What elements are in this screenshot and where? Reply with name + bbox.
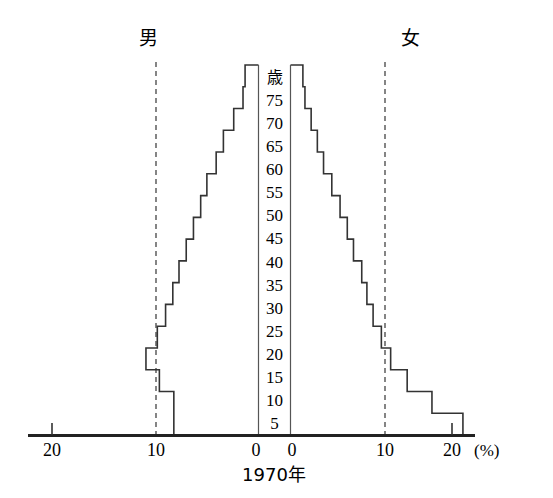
series-path-male: [146, 65, 259, 435]
x-tick-label-left-0: 0: [252, 440, 261, 460]
age-axis-tick-label: 60: [266, 160, 283, 179]
age-axis-tick-label: 75: [266, 91, 283, 110]
age-axis-tick-label: 15: [266, 368, 283, 387]
age-axis-tick-label: 35: [266, 276, 283, 295]
age-axis-tick-label: 40: [266, 253, 283, 272]
x-tick-label-left-10: 10: [147, 440, 165, 460]
age-axis-tick-label: 歳: [267, 68, 283, 87]
x-axis-year-label: 1970年: [242, 464, 306, 485]
x-tick-label-right-0: 0: [288, 440, 297, 460]
x-tick-label-left-20: 20: [43, 440, 61, 460]
series-path-female: [291, 65, 463, 435]
age-axis-tick-label: 50: [266, 206, 283, 225]
age-axis-tick-label: 5: [270, 414, 279, 433]
age-axis-tick-label: 25: [266, 322, 283, 341]
age-axis-tick-label: 55: [266, 183, 283, 202]
x-axis-unit-label: (%): [474, 441, 499, 460]
x-tick-label-right-20: 20: [443, 440, 461, 460]
age-axis-tick-label: 10: [266, 391, 283, 410]
age-axis-tick-label: 30: [266, 299, 283, 318]
population-pyramid-chart: 男 女 歳75706560555045403530252015105 20 10…: [0, 0, 553, 498]
age-axis-tick-label: 70: [266, 114, 283, 133]
legend-label-female: 女: [401, 27, 420, 49]
age-axis-tick-label: 20: [266, 345, 283, 364]
age-axis-labels: 歳75706560555045403530252015105: [266, 68, 283, 434]
x-tick-label-right-10: 10: [376, 440, 394, 460]
pyramid-svg-canvas: 男 女 歳75706560555045403530252015105 20 10…: [0, 0, 553, 498]
legend-label-male: 男: [139, 27, 158, 49]
age-axis-tick-label: 65: [266, 137, 283, 156]
age-axis-tick-label: 45: [266, 229, 283, 248]
